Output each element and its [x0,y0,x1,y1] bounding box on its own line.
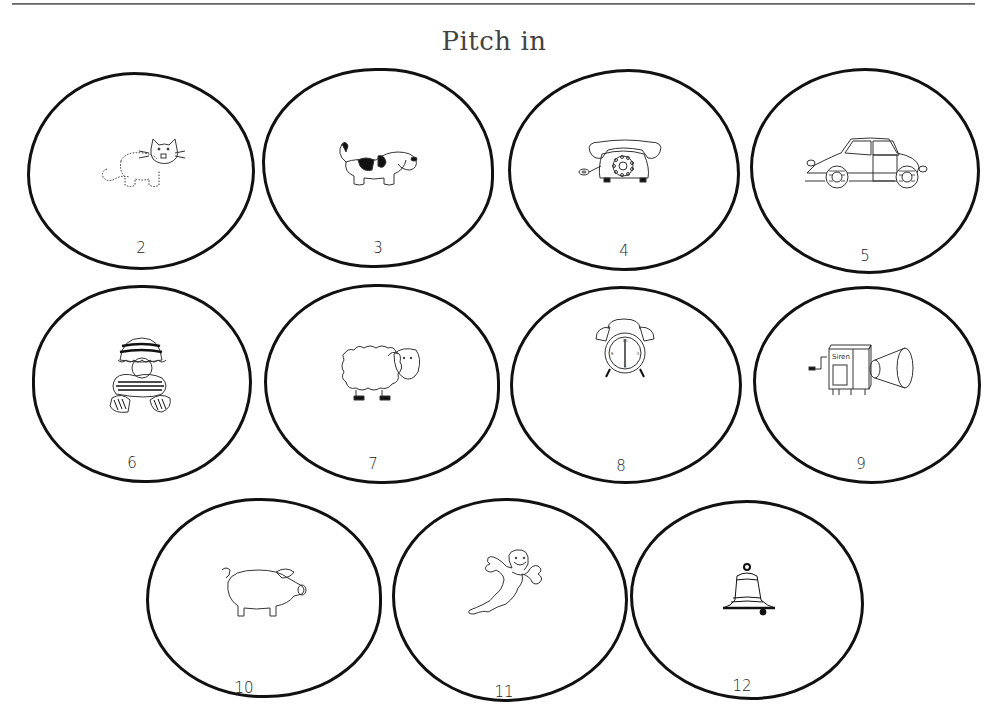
siren-icon: Siren [809,343,917,399]
card-ghost: 11 [392,498,628,702]
top-rule [12,3,975,5]
card-number: 9 [744,455,978,473]
dog-icon [336,140,420,190]
svg-text:Siren: Siren [832,353,850,361]
card-number: 10 [109,679,379,697]
card-bell: 12 [630,500,864,700]
svg-text:12: 12 [622,338,628,343]
page-title: Pitch in [0,26,988,56]
card-dog: 3 [262,68,494,268]
card-cat: 2 [27,72,255,270]
svg-text:3: 3 [637,351,640,356]
bell-icon [723,562,779,618]
card-number: 4 [511,242,737,260]
ghost-icon [468,550,552,630]
card-number: 2 [30,239,252,257]
alarm-clock-icon: 12 3 6 9 [594,317,656,381]
telephone-icon [578,138,670,186]
card-pig: 10 [146,498,382,698]
card-alarm-clock: 12 3 6 9 8 [510,286,742,484]
sheep-icon [338,344,420,402]
card-number: 11 [383,683,625,701]
card-number: 7 [249,455,497,473]
pig-icon [218,566,308,618]
card-child: 6 [32,285,252,483]
cat-icon [99,131,183,195]
card-number: 3 [265,239,491,257]
svg-text:9: 9 [611,351,614,356]
card-number: 12 [623,677,861,695]
card-number: 5 [753,247,977,265]
card-number: 8 [503,457,739,475]
card-sheep: 7 [264,284,500,484]
card-telephone: 4 [508,69,740,271]
svg-text:6: 6 [624,364,627,369]
card-number: 6 [15,454,249,472]
card-siren: Siren 9 [753,286,981,484]
child-icon [108,338,172,414]
car-icon [803,135,931,191]
card-car: 5 [750,68,980,274]
